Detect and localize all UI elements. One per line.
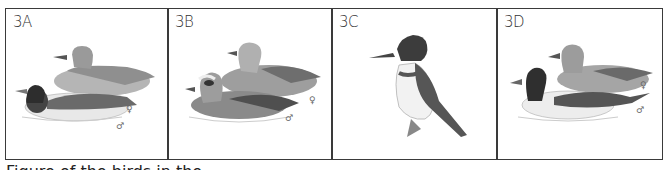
mallard-pair-illustration: ♀ ♂ (7, 9, 167, 159)
male-symbol: ♂ (636, 105, 644, 115)
male-symbol: ♂ (116, 121, 124, 131)
panel-3a: ♀ ♂ 3A (7, 9, 167, 159)
panel-label: 3B (175, 13, 193, 31)
panel-label: 3C (339, 13, 358, 31)
female-symbol: ♀ (640, 80, 647, 90)
wigeon-pair-illustration: ♀ ♂ (169, 9, 331, 159)
panel-3b: ♀ ♂ 3B (169, 9, 331, 159)
panel-3d: ♀ ♂ 3D (498, 9, 663, 159)
panel-label: 3A (13, 13, 32, 31)
panel-3c: 3C (333, 9, 496, 159)
figure-caption: Figure of the birds in the (6, 162, 202, 170)
male-symbol: ♂ (285, 113, 293, 123)
female-symbol: ♀ (126, 104, 133, 114)
panel-label: 3D (504, 13, 524, 31)
female-symbol: ♀ (309, 95, 316, 105)
pintail-pair-illustration: ♀ ♂ (498, 9, 663, 159)
kingfisher-illustration (333, 9, 496, 159)
